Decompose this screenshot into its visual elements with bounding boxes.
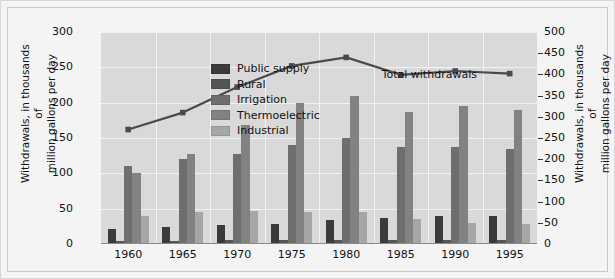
y-tickmark-right-150 [538, 180, 543, 181]
chart-legend: Public supplyRuralIrrigationThermoelectr… [211, 61, 320, 139]
y-tickmark-right-250 [538, 138, 543, 139]
legend-item-public-supply[interactable]: Public supply [211, 61, 320, 77]
chart-frame: Withdrawals, in thousands of million gal… [7, 7, 608, 272]
y-tick-right-200: 200 [544, 153, 565, 164]
y-tickmark-right-300 [538, 117, 543, 118]
x-tick-1970: 1970 [210, 248, 265, 261]
x-tick-1975: 1975 [265, 248, 320, 261]
legend-item-rural[interactable]: Rural [211, 77, 320, 93]
legend-swatch-icon-rural [211, 79, 230, 89]
x-tick-1960: 1960 [101, 248, 156, 261]
y-tickmark-right-100 [538, 202, 543, 203]
y-tickmark-right-400 [538, 74, 543, 75]
y-tick-right-450: 450 [544, 47, 565, 58]
legend-label: Thermoelectric [237, 110, 320, 121]
line-marker-1965 [180, 110, 186, 116]
y-tickmark-right-200 [538, 159, 543, 160]
y-tick-right-50: 50 [544, 217, 558, 228]
x-axis-line [101, 243, 537, 244]
y-tickmark-right-350 [538, 96, 543, 97]
legend-swatch-icon-public-supply [211, 64, 230, 74]
legend-item-irrigation[interactable]: Irrigation [211, 92, 320, 108]
y-tick-right-0: 0 [544, 238, 551, 249]
legend-swatch-icon-thermoelectric [211, 110, 230, 120]
annotation-total-withdrawals: Total withdrawals [382, 68, 477, 81]
legend-item-thermoelectric[interactable]: Thermoelectric [211, 108, 320, 124]
line-marker-1980 [343, 55, 349, 61]
legend-label: Rural [237, 79, 265, 90]
legend-label: Irrigation [237, 94, 287, 105]
x-tick-1990: 1990 [428, 248, 483, 261]
y-axis-title-right: Withdrawals, in thousands of million gal… [573, 39, 612, 189]
x-tick-1965: 1965 [156, 248, 211, 261]
y-tick-left-50: 50 [59, 203, 73, 214]
legend-label: Public supply [237, 63, 309, 74]
line-marker-1995 [507, 71, 513, 77]
y-tick-right-350: 350 [544, 90, 565, 101]
y-tick-left-300: 300 [52, 26, 73, 37]
y-tick-right-300: 300 [544, 111, 565, 122]
x-tick-1995: 1995 [483, 248, 538, 261]
legend-swatch-icon-industrial [211, 126, 230, 136]
legend-item-industrial[interactable]: Industrial [211, 123, 320, 139]
legend-swatch-icon-irrigation [211, 95, 230, 105]
y-tick-right-100: 100 [544, 196, 565, 207]
y-tick-left-200: 200 [52, 97, 73, 108]
plot-area: Public supplyRuralIrrigationThermoelectr… [101, 32, 537, 244]
y-tick-left-250: 250 [52, 61, 73, 72]
x-tick-1985: 1985 [374, 248, 429, 261]
line-marker-1960 [125, 127, 131, 133]
y-tickmark-right-450 [538, 53, 543, 54]
y-tickmark-right-50 [538, 223, 543, 224]
y-tick-right-500: 500 [544, 26, 565, 37]
chart-figure: Withdrawals, in thousands of million gal… [0, 0, 615, 279]
y-tick-left-0: 0 [66, 238, 73, 249]
x-tick-1980: 1980 [319, 248, 374, 261]
y-tick-left-150: 150 [52, 132, 73, 143]
y-tick-right-150: 150 [544, 174, 565, 185]
y-tick-right-250: 250 [544, 132, 565, 143]
y-tick-left-100: 100 [52, 167, 73, 178]
y-tick-right-400: 400 [544, 68, 565, 79]
legend-label: Industrial [237, 125, 289, 136]
